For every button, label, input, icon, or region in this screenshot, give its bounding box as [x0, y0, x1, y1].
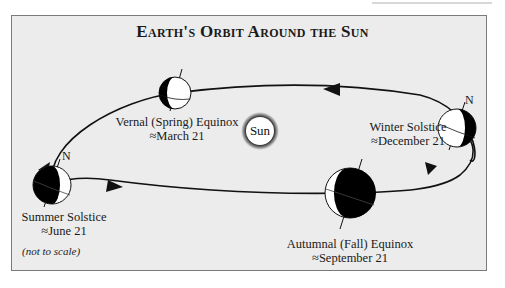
position-name: Summer Solstice — [14, 210, 114, 224]
position-date: ≈December 21 — [358, 134, 458, 148]
position-date: ≈June 21 — [14, 224, 114, 238]
label-summer: Summer Solstice ≈June 21 — [14, 210, 114, 238]
north-marker-summer: N — [62, 149, 71, 163]
position-date: ≈September 21 — [280, 251, 420, 265]
label-winter: Winter Solstice ≈December 21 — [358, 120, 458, 148]
earth-summer — [33, 159, 71, 207]
scale-note: (not to scale) — [22, 245, 80, 257]
arrow-icon — [425, 162, 437, 175]
sun-label: Sun — [243, 123, 277, 139]
label-vernal: Vernal (Spring) Equinox ≈March 21 — [112, 115, 242, 143]
label-autumnal: Autumnal (Fall) Equinox ≈September 21 — [280, 237, 420, 265]
position-date: ≈March 21 — [112, 129, 242, 143]
position-name: Vernal (Spring) Equinox — [112, 115, 242, 129]
position-name: Autumnal (Fall) Equinox — [280, 237, 420, 251]
position-name: Winter Solstice — [358, 120, 458, 134]
earth-vernal — [159, 69, 191, 111]
north-marker-winter: N — [465, 93, 474, 107]
earth-autumnal — [325, 159, 376, 229]
